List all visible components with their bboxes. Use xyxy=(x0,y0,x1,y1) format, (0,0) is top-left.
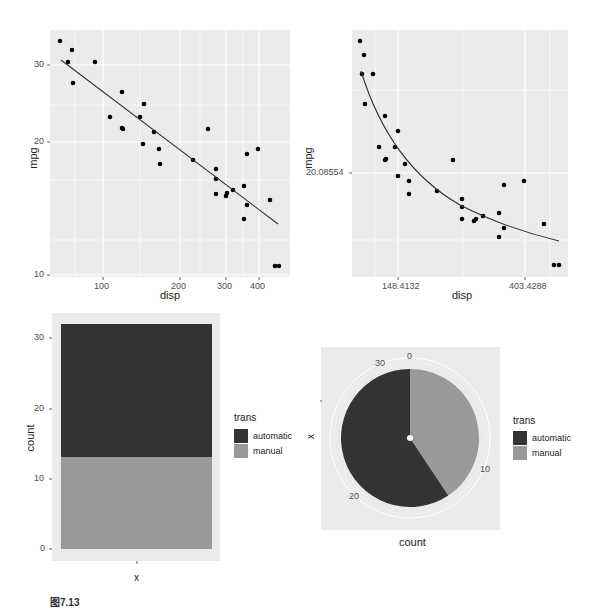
x-tick-148: 148.4132 xyxy=(382,281,420,291)
legend-title: trans xyxy=(234,412,256,423)
angle-tick-30: 30 xyxy=(375,358,385,368)
legend-key-manual xyxy=(513,446,527,460)
scatter-log-plot xyxy=(0,0,300,300)
y-tick-10: 10 xyxy=(34,269,44,279)
y-tick-10: 10 xyxy=(34,473,44,483)
y-axis-title: x xyxy=(305,434,316,439)
legend-label-manual: manual xyxy=(253,446,283,456)
x-tick-403: 403.4288 xyxy=(509,281,547,291)
legend-label-automatic: automatic xyxy=(532,433,571,443)
angle-tick-20: 20 xyxy=(349,491,359,501)
x-axis-title: count xyxy=(399,536,426,548)
pie-panel: 0 10 20 30 count x trans automatic manua… xyxy=(300,300,594,603)
legend-title: trans xyxy=(513,415,535,426)
y-tick-30: 30 xyxy=(34,332,44,342)
y-tick-20: 20 xyxy=(34,403,44,413)
scatter-exp-plot xyxy=(300,0,594,300)
y-axis-title: mpg xyxy=(27,147,39,168)
y-axis-title: count xyxy=(24,425,36,452)
legend-key-manual xyxy=(234,444,248,458)
legend-key-automatic xyxy=(513,431,527,445)
y-axis-title: mpg xyxy=(302,147,314,168)
bar-manual xyxy=(61,457,212,549)
legend-label-automatic: automatic xyxy=(253,431,292,441)
x-axis-title: x xyxy=(134,572,139,583)
angle-tick-0: 0 xyxy=(407,351,412,361)
y-tick-20: 20 xyxy=(34,136,44,146)
scatter-exp-panel: 20.08554 148.4132 403.4288 disp mpg xyxy=(300,0,594,300)
stacked-bar-panel: 30 20 10 0 x count trans automatic manua… xyxy=(0,300,300,603)
y-tick-30: 30 xyxy=(34,59,44,69)
bar-automatic xyxy=(61,324,212,457)
legend-key-automatic xyxy=(234,429,248,443)
scatter-log-panel: 30 20 10 100 200 300 400 disp mpg xyxy=(0,0,300,300)
x-tick-300: 300 xyxy=(217,281,232,291)
figure-caption: 图7.13 xyxy=(50,594,79,609)
legend-label-manual: manual xyxy=(532,448,562,458)
angle-tick-10: 10 xyxy=(480,464,490,474)
x-tick-400: 400 xyxy=(250,281,265,291)
y-tick-0: 0 xyxy=(40,543,45,553)
x-tick-100: 100 xyxy=(94,281,109,291)
